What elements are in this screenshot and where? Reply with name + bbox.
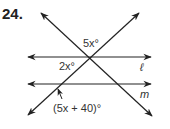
- label-line-l: ℓ: [139, 61, 144, 73]
- label-5x-plus-40: (5x + 40)°: [53, 102, 101, 114]
- transversal-sw-ne: [28, 13, 139, 115]
- parallel-lines-diagram: 5x° 2x° ℓ m (5x + 40)°: [0, 0, 170, 129]
- transversal-nw-se: [41, 13, 152, 116]
- pointer-arrow: [58, 89, 62, 99]
- label-2x: 2x°: [59, 60, 75, 72]
- label-5x: 5x°: [83, 37, 99, 49]
- label-line-m: m: [140, 88, 149, 100]
